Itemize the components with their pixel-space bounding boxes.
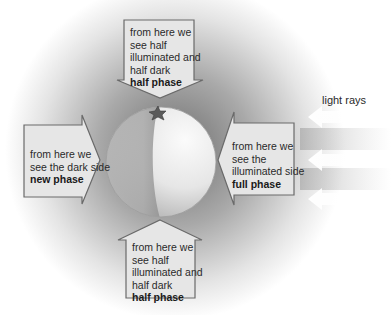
phase-name: new phase [30,173,110,186]
label-line: see half [130,39,201,52]
light-rays-label: light rays [322,94,366,106]
label-line: illuminated and [130,51,201,64]
label-line: half dark [130,64,201,77]
label-line: from here we [30,148,110,161]
label-line: half dark [132,279,203,292]
label-line: see the dark side [30,161,110,174]
label-line: from here we [232,140,304,153]
label-line: from here we [130,26,201,39]
label-line: see half [132,254,203,267]
phase-name: full phase [232,178,304,191]
light-ray-band [300,168,391,190]
label-line: illuminated side [232,165,304,178]
label-line: see the [232,153,304,166]
label-line: illuminated and [132,266,203,279]
viewpoint-label-left: from here we see the dark side new phase [30,148,110,186]
phase-name: half phase [132,291,203,304]
viewpoint-label-right: from here we see the illuminated side fu… [232,140,304,190]
viewpoint-label-bottom: from here we see half illuminated and ha… [132,241,203,304]
light-ray-band [300,128,391,150]
viewpoint-label-top: from here we see half illuminated and ha… [130,26,201,89]
phase-name: half phase [130,76,201,89]
label-line: from here we [132,241,203,254]
